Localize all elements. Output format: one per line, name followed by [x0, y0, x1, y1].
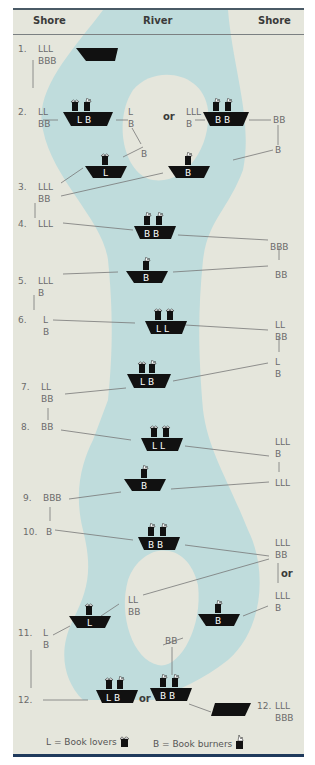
island-group: BB [165, 635, 177, 647]
shore-left: LLL BBB [38, 43, 57, 67]
boat-one-lover: L [69, 602, 111, 636]
boat-two-lovers: L L [145, 307, 187, 343]
svg-text:L: L [87, 618, 92, 628]
svg-text:L B: L B [140, 377, 154, 387]
shore-right: LL BB [275, 319, 287, 343]
step-number: 6. [18, 315, 27, 325]
shore-left: LL BB [38, 106, 50, 130]
shore-left: L B [43, 627, 49, 651]
island-group: LLL B [186, 106, 201, 130]
step-number: 4. [18, 219, 27, 229]
step-number: 8. [21, 422, 30, 432]
legend-burners-label: B = Book burners [153, 739, 232, 749]
svg-text:L: L [103, 168, 108, 178]
empty-boat-icon [76, 48, 118, 62]
step-number: 12. [257, 701, 271, 711]
island-group: L B [128, 106, 134, 130]
step-number: 11. [18, 628, 32, 638]
boat-two-burners: B B [134, 212, 176, 248]
step-number: 2. [18, 107, 27, 117]
table-header: Shore River Shore [13, 10, 304, 35]
boat-lover-burner: L B [96, 676, 138, 712]
shore-left: LLL B [38, 275, 53, 299]
header-right-shore: Shore [258, 15, 291, 26]
book-lover-icon [120, 735, 129, 747]
step-number: 9. [23, 493, 32, 503]
svg-text:B: B [143, 273, 149, 283]
svg-text:L L: L L [156, 324, 169, 334]
shore-right: LLL B [275, 590, 290, 614]
legend-burners: B = Book burners [153, 735, 244, 749]
boat-lover-burner: L B [63, 98, 113, 134]
shore-left: LL BB [41, 381, 53, 405]
svg-text:B: B [185, 168, 191, 178]
shore-right: LLL BBB [275, 700, 294, 724]
empty-boat-icon [211, 703, 251, 717]
boat-one-burner: B [168, 152, 210, 186]
svg-text:B B: B B [144, 229, 159, 239]
boat-lover-burner: L B [127, 360, 171, 396]
boat-two-burners: B B [203, 98, 249, 134]
legend-lovers: L = Book lovers [46, 735, 129, 747]
shore-left: LLL BB [38, 181, 53, 205]
svg-text:B B: B B [148, 540, 163, 550]
island-group: B [141, 148, 147, 160]
shore-left: B [46, 526, 52, 538]
legend-lovers-label: L = Book lovers [46, 737, 117, 747]
header-river: River [143, 15, 172, 26]
step-number: 1. [18, 44, 27, 54]
boat-label: L B [77, 115, 91, 125]
shore-right: B [275, 144, 281, 156]
shore-right: BB [275, 269, 287, 281]
or-label: or [163, 111, 175, 122]
step-number: 5. [18, 276, 27, 286]
shore-right: LLL BB [275, 537, 290, 561]
shore-left: BBB [43, 492, 62, 504]
step-number: 3. [18, 182, 27, 192]
shore-left: L B [43, 314, 49, 338]
book-burner-icon [235, 735, 244, 749]
boat-two-lovers: L L [141, 424, 183, 460]
shore-left: LLL [38, 218, 53, 230]
boat-two-burners: B B [150, 674, 192, 710]
svg-text:B: B [215, 616, 221, 626]
shore-right: L B [275, 356, 281, 380]
shore-right: LLL [275, 477, 290, 489]
step-number: 10. [23, 527, 37, 537]
river-crossing-diagram: Shore River Shore 1. LLL BBB 2. LL BB L … [13, 8, 304, 757]
or-label: or [281, 568, 293, 579]
header-left-shore: Shore [33, 15, 66, 26]
svg-text:B: B [141, 481, 147, 491]
island-group: LL BB [128, 594, 140, 618]
boat-two-burners: B B [138, 523, 180, 559]
boat-one-burner: B [124, 465, 166, 499]
svg-text:B B: B B [160, 691, 175, 701]
step-number: 12. [18, 695, 32, 705]
boat-one-lover: L [85, 152, 127, 186]
boat-one-burner: B [198, 600, 240, 634]
shore-right: LLL B [275, 436, 290, 460]
shore-left: BB [41, 421, 53, 433]
boat-one-burner: B [126, 257, 168, 291]
shore-right: BB [273, 114, 285, 126]
shore-right: BBB [270, 241, 289, 253]
step-number: 7. [21, 382, 30, 392]
svg-text:L L: L L [152, 441, 165, 451]
svg-text:L B: L B [106, 693, 120, 703]
svg-text:B B: B B [215, 115, 230, 125]
